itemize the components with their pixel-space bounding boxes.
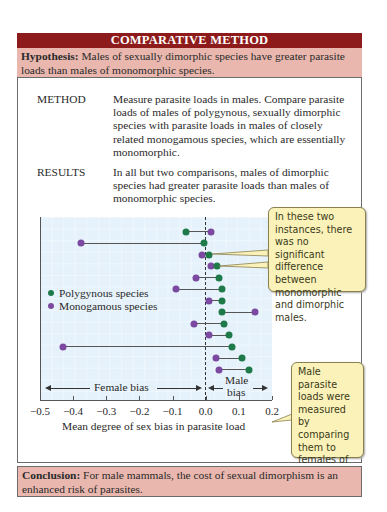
polygynous-point — [220, 320, 227, 327]
monogamous-point — [206, 297, 213, 304]
legend-polygynous: Polygynous species — [48, 287, 149, 299]
x-axis-label: Mean degree of sex bias in parasite load — [62, 420, 245, 432]
hypothesis-box: Hypothesis: Males of sexually dimorphic … — [17, 48, 362, 78]
x-tick-label: −0.1 — [163, 405, 183, 417]
polygynous-point — [229, 343, 236, 350]
monogamous-point — [206, 332, 213, 339]
method-text: Measure parasite loads in males. Compare… — [113, 93, 353, 159]
x-tick-label: −0.5 — [30, 405, 50, 417]
monogamous-point — [60, 343, 67, 350]
polygynous-point — [219, 309, 226, 316]
female-bias-arrow-line — [50, 388, 90, 389]
results-text: In all but two comparisons, males of dim… — [113, 166, 353, 206]
male-bias-label-1: Male — [225, 374, 248, 386]
callout-no-difference: In these two instances, there was no sig… — [268, 207, 366, 292]
x-tick — [173, 396, 174, 400]
monogamous-point — [78, 240, 85, 247]
green-dot-icon — [48, 290, 54, 296]
x-tick — [73, 396, 74, 400]
comparison-line — [222, 312, 255, 313]
x-tick-label: 0.0 — [199, 405, 213, 417]
legend-monogamous: Monogamous species — [48, 300, 157, 312]
comparison-line — [176, 289, 222, 290]
conclusion-box: Conclusion: For male mammals, the cost o… — [17, 466, 362, 497]
x-axis-line — [40, 400, 272, 401]
polygynous-point — [219, 286, 226, 293]
polygynous-point — [245, 366, 252, 373]
monogamous-point — [191, 320, 198, 327]
monogamous-point — [215, 366, 222, 373]
callout-measurement: Male parasite loads were measured by com… — [291, 362, 364, 458]
x-tick — [40, 396, 41, 400]
polygynous-point — [201, 240, 208, 247]
polygynous-point — [215, 274, 222, 281]
x-tick — [206, 396, 207, 400]
x-tick-label: −0.3 — [96, 405, 116, 417]
x-tick — [272, 396, 273, 400]
method-label: METHOD — [37, 93, 86, 105]
monogamous-point — [207, 228, 214, 235]
results-label: RESULTS — [37, 166, 85, 178]
polygynous-point — [206, 251, 213, 258]
male-bias-arrow-line — [213, 388, 223, 389]
arrow-right-icon — [196, 385, 202, 391]
x-tick — [106, 396, 107, 400]
male-bias-label-2: bias — [227, 386, 245, 398]
comparison-line — [63, 346, 232, 347]
conclusion-label: Conclusion: — [22, 469, 80, 481]
y-axis-line — [40, 217, 41, 400]
polygynous-point — [214, 263, 221, 270]
polygynous-point — [219, 297, 226, 304]
monogamous-point — [252, 309, 259, 316]
arrow-right-icon — [262, 385, 268, 391]
polygynous-point — [225, 332, 232, 339]
monogamous-point — [212, 355, 219, 362]
x-tick-label: −0.2 — [129, 405, 149, 417]
x-tick-label: 0.1 — [232, 405, 246, 417]
monogamous-point — [192, 274, 199, 281]
x-tick-label: 0.2 — [265, 405, 279, 417]
monogamous-point — [172, 286, 179, 293]
polygynous-point — [239, 355, 246, 362]
hypothesis-label: Hypothesis: — [21, 50, 79, 62]
panel-title: COMPARATIVE METHOD — [17, 33, 362, 48]
x-tick-label: −0.4 — [63, 405, 83, 417]
polygynous-point — [182, 228, 189, 235]
female-bias-arrow-line — [157, 388, 197, 389]
x-tick — [139, 396, 140, 400]
comparison-line — [81, 243, 204, 244]
purple-dot-icon — [48, 303, 54, 309]
female-bias-label: Female bias — [94, 381, 149, 393]
